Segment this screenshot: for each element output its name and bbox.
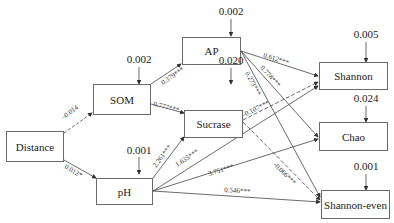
node-som: SOM	[93, 84, 151, 115]
svg-text:0.273***: 0.273***	[243, 70, 263, 97]
svg-text:-0.107***: -0.107***	[241, 99, 271, 119]
error-shannon: 0.005	[354, 28, 379, 40]
error-shannon-even: 0.001	[354, 160, 379, 172]
svg-text:0.777***: 0.777***	[153, 100, 181, 114]
error-chao: 0.024	[354, 92, 379, 104]
svg-text:3.751***: 3.751***	[207, 162, 235, 177]
node-shannon-even: Shannon-even	[321, 190, 390, 219]
svg-text:1.635***: 1.635***	[174, 147, 201, 168]
error-som: 0.002	[127, 53, 152, 65]
svg-text:0.612***: 0.612***	[262, 51, 290, 67]
node-shannon: Shannon	[319, 62, 388, 90]
error-sucrase: 0.020	[219, 54, 244, 66]
svg-text:0.778***: 0.778***	[259, 64, 283, 89]
node-sucrase: Sucrase	[184, 110, 243, 138]
node-ph: pH	[96, 178, 153, 205]
svg-text:-0.014: -0.014	[60, 103, 80, 120]
node-chao: Chao	[319, 122, 388, 151]
error-ap: 0.002	[219, 5, 244, 17]
svg-text:0.546***: 0.546***	[224, 186, 251, 196]
error-ph: 0.001	[127, 144, 152, 156]
node-distance: Distance	[6, 131, 64, 162]
